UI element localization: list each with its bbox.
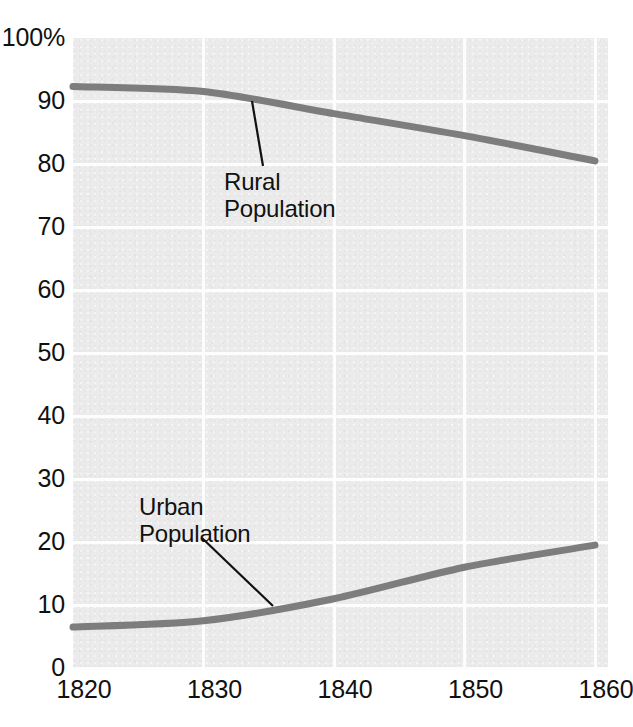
annotation-leader-line-0 (252, 101, 263, 166)
annotation-leader-line-1 (202, 538, 273, 606)
annotation-label-rural-population: Rural Population (224, 168, 335, 222)
annotation-label-urban-population: Urban Population (139, 493, 250, 547)
series-line-urban-population (73, 545, 595, 627)
series-line-rural-population (73, 87, 595, 161)
